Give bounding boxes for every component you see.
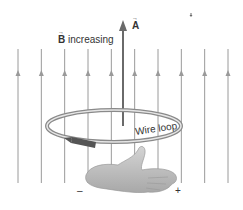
area-vector-label: A [132, 20, 139, 31]
b-vector-symbol: B [58, 34, 65, 45]
field-line-arrowhead [62, 70, 67, 76]
field-line-arrowhead [39, 70, 44, 76]
a-vector-symbol: A [132, 20, 139, 31]
field-line-arrowhead [86, 70, 91, 76]
b-increasing-label: B increasing [58, 34, 114, 45]
plus-terminal-label: + [175, 185, 181, 196]
diagram-svg [0, 0, 243, 210]
field-line-arrowhead [226, 70, 231, 76]
field-line-arrowhead [156, 70, 161, 76]
b-increasing-text: increasing [65, 34, 113, 45]
right-hand-icon [86, 146, 177, 192]
field-line-arrowhead [109, 70, 114, 76]
field-line-arrowhead [202, 70, 207, 76]
field-line-arrowhead [16, 70, 21, 76]
minus-terminal-label: – [77, 185, 83, 196]
diagram-canvas: B increasing A Wire loop – + [0, 0, 243, 210]
field-line-arrowhead [179, 70, 184, 76]
stray-mark [190, 13, 193, 17]
field-line-arrowhead [132, 70, 137, 76]
